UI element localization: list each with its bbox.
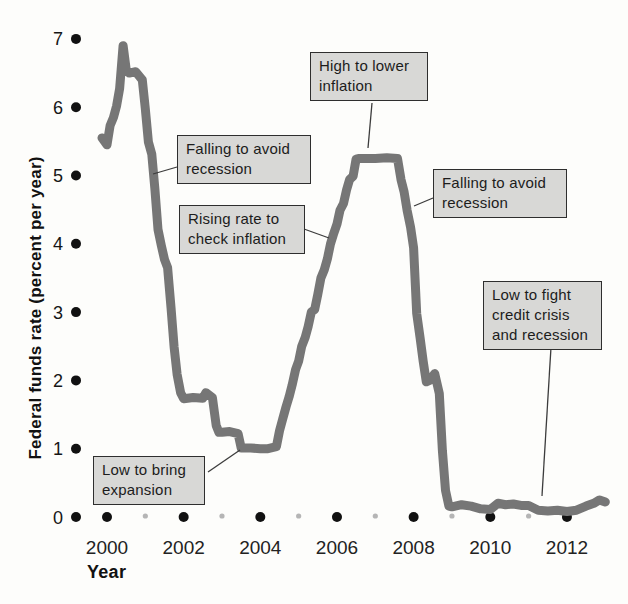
x-axis-title: Year <box>87 562 126 583</box>
federal-funds-rate-line <box>102 46 605 512</box>
y-tick-dot-1 <box>71 444 81 454</box>
x-tick-dot-2002 <box>179 512 189 522</box>
x-tick-dot-2008 <box>409 512 419 522</box>
annotation-line: expansion <box>102 480 196 500</box>
x-minor-tick-dot-2009 <box>449 513 454 518</box>
y-tick-label-0: 0 <box>53 508 63 528</box>
x-tick-label-2008: 2008 <box>392 537 434 558</box>
x-minor-tick-dot-2011 <box>526 513 531 518</box>
annotation-low-to-fight-credit-crisis: Low to fight credit crisis and recession <box>483 281 602 350</box>
x-minor-tick-dot-2005 <box>296 513 301 518</box>
y-tick-dot-4 <box>71 239 81 249</box>
x-tick-label-2006: 2006 <box>316 537 358 558</box>
y-tick-label-4: 4 <box>53 234 63 254</box>
annotation-line: Falling to avoid <box>442 173 558 193</box>
annotation-rising-rate-to-check-inflation: Rising rate to check inflation <box>179 205 305 254</box>
x-tick-label-2012: 2012 <box>546 537 588 558</box>
callout-falling-2008 <box>414 198 433 206</box>
callout-low-credit <box>542 347 551 496</box>
x-tick-dot-2006 <box>332 512 342 522</box>
x-tick-dot-2000 <box>102 512 112 522</box>
y-tick-label-2: 2 <box>53 371 63 391</box>
y-axis-title: Federal funds rate (percent per year) <box>26 156 46 459</box>
annotation-falling-to-avoid-recession-2001: Falling to avoid recession <box>177 135 311 184</box>
y-tick-label-3: 3 <box>53 303 63 323</box>
annotation-falling-to-avoid-recession-2008: Falling to avoid recession <box>433 169 567 218</box>
y-tick-label-1: 1 <box>53 439 63 459</box>
annotation-line: credit crisis <box>492 305 593 325</box>
annotation-line: High to lower <box>319 56 419 76</box>
annotation-line: and recession <box>492 325 593 345</box>
x-minor-tick-dot-2001 <box>143 513 148 518</box>
annotation-line: Rising rate to <box>188 209 296 229</box>
x-minor-tick-dot-2007 <box>373 513 378 518</box>
annotation-line: recession <box>186 159 302 179</box>
y-tick-label-5: 5 <box>53 166 63 186</box>
x-tick-label-2002: 2002 <box>163 537 205 558</box>
y-tick-dot-5 <box>71 171 81 181</box>
annotation-line: Low to bring <box>102 460 196 480</box>
x-minor-tick-dot-2003 <box>219 513 224 518</box>
callout-rising-2004 <box>304 229 329 238</box>
callout-high-2006 <box>368 103 372 148</box>
federal-funds-rate-figure: 012345672000200220042006200820102012 Fed… <box>0 0 628 604</box>
y-tick-label-6: 6 <box>53 98 63 118</box>
y-tick-dot-3 <box>71 307 81 317</box>
y-tick-label-7: 7 <box>53 29 63 49</box>
annotation-line: Falling to avoid <box>186 139 302 159</box>
y-tick-dot-2 <box>71 375 81 385</box>
callout-low-expansion <box>208 450 240 472</box>
x-tick-label-2004: 2004 <box>239 537 282 558</box>
x-tick-label-2000: 2000 <box>86 537 128 558</box>
annotation-line: inflation <box>319 76 419 96</box>
annotation-line: recession <box>442 193 558 213</box>
y-tick-dot-6 <box>71 102 81 112</box>
annotation-low-to-bring-expansion: Low to bring expansion <box>93 456 205 505</box>
x-tick-label-2010: 2010 <box>469 537 511 558</box>
annotation-line: check inflation <box>188 229 296 249</box>
annotation-line: Low to fight <box>492 285 593 305</box>
annotation-high-to-lower-inflation: High to lower inflation <box>310 52 428 101</box>
y-tick-dot-0 <box>71 512 81 522</box>
x-tick-dot-2004 <box>255 512 265 522</box>
y-tick-dot-7 <box>71 34 81 44</box>
